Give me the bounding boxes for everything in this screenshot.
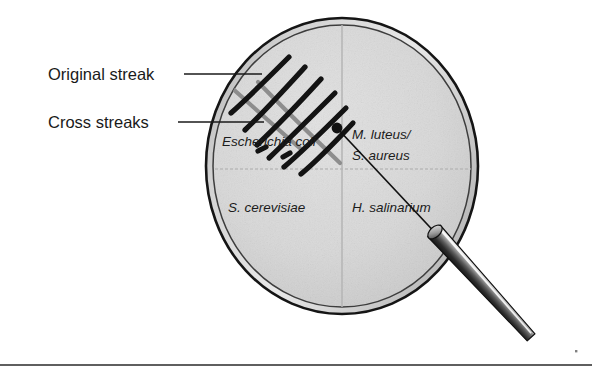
petri-dish: Escherichia coli M. luteus/ S. aureus S.… bbox=[206, 18, 478, 314]
quadrant-label-upper-right-line1: M. luteus/ bbox=[352, 127, 412, 142]
footer-speck bbox=[575, 350, 577, 352]
footer-group bbox=[0, 350, 592, 365]
quadrant-label-upper-left: Escherichia coli bbox=[222, 134, 317, 149]
cross-streaks-label: Cross streaks bbox=[48, 113, 149, 131]
original-streak-label: Original streak bbox=[48, 65, 155, 83]
loop-handle bbox=[428, 225, 538, 343]
cross-streak-blob-2 bbox=[283, 153, 290, 157]
streak-plate-illustration: Escherichia coli M. luteus/ S. aureus S.… bbox=[0, 0, 592, 375]
quadrant-label-lower-left: S. cerevisiae bbox=[228, 200, 305, 215]
loop-handle-body bbox=[428, 225, 538, 343]
figure-canvas: Escherichia coli M. luteus/ S. aureus S.… bbox=[0, 0, 592, 375]
quadrant-label-upper-right-line2: S. aureus bbox=[352, 148, 410, 163]
quadrant-label-lower-right: H. salinarium bbox=[352, 200, 431, 215]
loop-tip bbox=[332, 123, 343, 134]
